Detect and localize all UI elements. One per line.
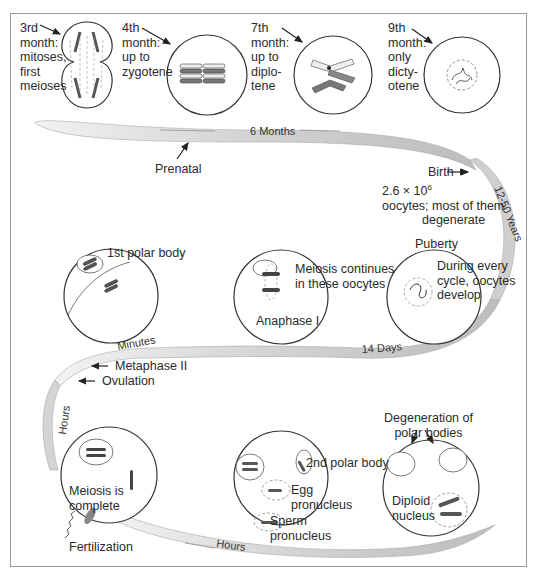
label-metaphase-2: Metaphase II xyxy=(115,359,187,374)
meiosis-complete-line: Meiosis is xyxy=(69,484,124,499)
puberty-desc-line: develop xyxy=(437,288,516,303)
diploid-line: Diploid xyxy=(392,494,435,509)
oocyte-count-base: 2.6 × 10 xyxy=(382,184,428,198)
sperm-pronucleus-line: Sperm xyxy=(270,514,331,529)
label-month3: 3rd month: mitoses, first meioses xyxy=(20,21,67,94)
label-birth: Birth xyxy=(428,165,454,180)
label-meiosis-continues: Meiosis continues in these oocytes xyxy=(295,262,394,291)
label-sperm-pronucleus: Sperm pronucleus xyxy=(270,514,331,543)
month3-line: 3rd xyxy=(20,21,67,36)
cell-month3 xyxy=(62,22,112,108)
puberty-desc-line: During every xyxy=(437,259,516,274)
label-meiosis-complete: Meiosis is complete xyxy=(69,484,124,513)
cell-first-polar-body xyxy=(64,249,158,343)
label-hours-vertical: Hours xyxy=(56,404,72,435)
month3-line: meioses xyxy=(20,79,67,94)
month9-line: 9th xyxy=(388,21,426,36)
meiosis-complete-line: complete xyxy=(69,499,124,514)
label-diploid-nucleus: Diploid nucleus xyxy=(392,494,435,523)
sperm-pronucleus-line: pronucleus xyxy=(270,529,331,544)
oocyte-count-line3: degenerate xyxy=(382,213,504,228)
label-month7: 7th month: up to diplo- tene xyxy=(251,21,289,94)
month7-line: 7th xyxy=(251,21,289,36)
cell-month4 xyxy=(167,35,247,115)
month9-line: month: xyxy=(388,36,426,51)
month9-line: only xyxy=(388,50,426,65)
oocyte-count-line1: 2.6 × 106 xyxy=(382,181,504,199)
month3-line: first xyxy=(20,65,67,80)
diploid-line: nucleus xyxy=(392,509,435,524)
month7-line: tene xyxy=(251,79,289,94)
month4-line: up to xyxy=(122,50,173,65)
label-oocyte-count: 2.6 × 106 oocytes; most of them degenera… xyxy=(382,181,504,228)
label-puberty-desc: During every cycle, oocytes develop xyxy=(437,259,516,303)
month3-line: mitoses, xyxy=(20,50,67,65)
degeneration-line: polar bodies xyxy=(384,426,473,441)
oocyte-count-exponent: 6 xyxy=(428,183,432,192)
month7-line: diplo- xyxy=(251,65,289,80)
label-second-polar-body: 2nd polar body xyxy=(306,456,389,471)
label-degeneration: Degeneration of polar bodies xyxy=(384,411,473,440)
meiosis-continues-line: Meiosis continues xyxy=(295,262,394,277)
cell-month7 xyxy=(294,36,372,114)
egg-pronucleus-line: pronucleus xyxy=(291,498,352,513)
label-first-polar-body: 1st polar body xyxy=(107,246,186,261)
label-hours-bottom: Hours xyxy=(216,537,247,553)
month4-line: month: xyxy=(122,36,173,51)
meiosis-continues-line: in these oocytes xyxy=(295,277,394,292)
label-anaphase: Anaphase I xyxy=(256,314,319,329)
label-puberty: Puberty xyxy=(415,237,458,252)
month7-line: up to xyxy=(251,50,289,65)
label-6-months: 6 Months xyxy=(250,125,296,137)
egg-pronucleus-line: Egg xyxy=(291,483,352,498)
label-ovulation: Ovulation xyxy=(102,374,155,389)
month4-line: 4th xyxy=(122,21,173,36)
label-egg-pronucleus: Egg pronucleus xyxy=(291,483,352,512)
label-month9: 9th month: only dicty- otene xyxy=(388,21,426,94)
label-month4: 4th month: up to zygotene xyxy=(122,21,173,79)
cell-month9 xyxy=(424,37,500,113)
puberty-desc-line: cycle, oocytes xyxy=(437,274,516,289)
month9-line: dicty- xyxy=(388,65,426,80)
label-fertilization: Fertilization xyxy=(69,540,133,555)
oocyte-count-line2: oocytes; most of them xyxy=(382,199,504,214)
month4-line: zygotene xyxy=(122,65,173,80)
cell-fertilization xyxy=(61,427,157,538)
label-prenatal: Prenatal xyxy=(155,162,202,177)
degeneration-line: Degeneration of xyxy=(384,411,473,426)
month9-line: otene xyxy=(388,79,426,94)
month7-line: month: xyxy=(251,36,289,51)
month3-line: month: xyxy=(20,36,67,51)
